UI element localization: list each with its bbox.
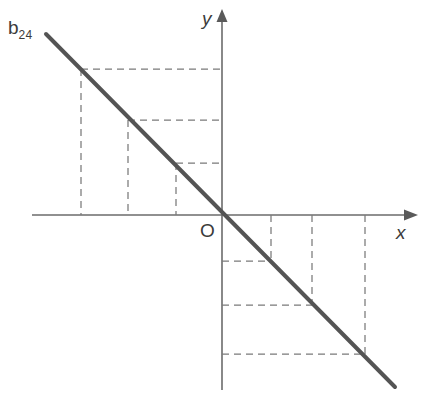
- y-axis-arrowhead: [217, 9, 228, 22]
- plot-canvas: [0, 0, 439, 407]
- axes-group: [32, 9, 418, 390]
- origin-label: O: [200, 220, 215, 242]
- series-label-base: b: [8, 17, 19, 38]
- series-label-b24: b24: [8, 18, 32, 41]
- x-axis-arrowhead: [404, 210, 418, 221]
- line-graph-figure: b24 y x O: [0, 0, 439, 407]
- main-line-b24: [46, 34, 395, 387]
- x-axis-label: x: [396, 222, 406, 244]
- y-axis-label: y: [202, 8, 212, 30]
- series-label-subscript: 24: [19, 28, 33, 42]
